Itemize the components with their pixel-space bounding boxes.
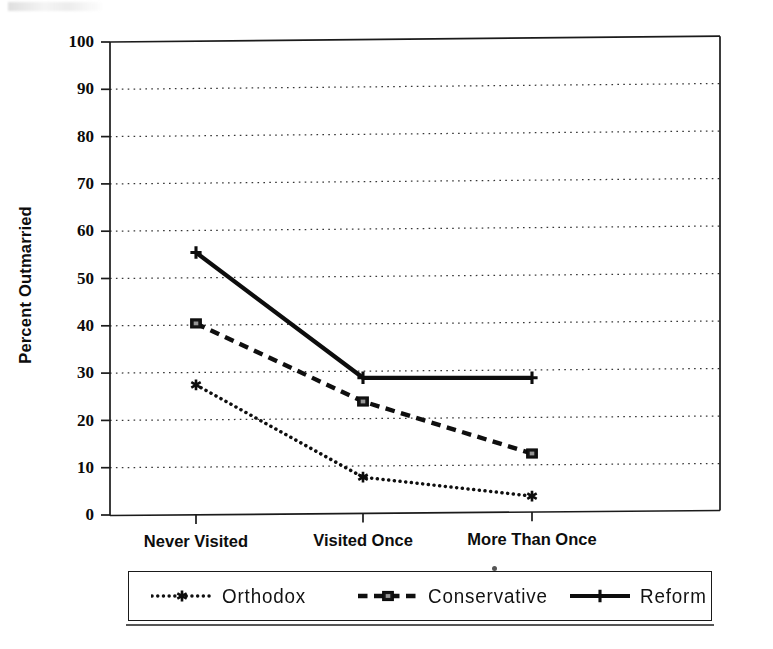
- y-tick-label: 100: [50, 33, 94, 50]
- data-point-marker: [526, 372, 537, 384]
- y-tick-label: 50: [50, 270, 94, 287]
- axes-frame: [110, 36, 720, 515]
- series-conservative: [191, 319, 537, 458]
- legend-entry-conservative[interactable]: Conservative: [357, 585, 556, 608]
- data-point-marker: [527, 449, 537, 458]
- legend-swatch-orthodox: [151, 587, 213, 605]
- legend-entry-reform[interactable]: Reform: [569, 585, 711, 608]
- y-tick-label: 0: [50, 506, 94, 523]
- y-tick-label: 30: [50, 364, 94, 381]
- legend-label-orthodox: Orthodox: [222, 585, 306, 608]
- y-tick-label: 70: [50, 175, 94, 192]
- y-tick-label: 20: [50, 412, 94, 429]
- x-tick-label-never-visited: Never Visited: [126, 533, 266, 550]
- data-point-marker: [191, 319, 201, 328]
- chart-legend: Orthodox Conservative: [128, 571, 712, 621]
- legend-swatch-conservative: [357, 587, 419, 605]
- series-reform: [190, 246, 537, 384]
- y-tick-label: 40: [50, 317, 94, 334]
- legend-label-conservative: Conservative: [428, 585, 548, 608]
- series-conservative-line: [196, 323, 532, 453]
- legend-swatch-reform: [569, 587, 631, 605]
- x-tick-label-more-than-once: More Than Once: [447, 531, 617, 548]
- y-axis-ticks: [101, 42, 110, 515]
- y-tick-label: 10: [50, 459, 94, 476]
- y-tick-label: 60: [50, 222, 94, 239]
- chart-figure: Percent Outmarried: [0, 0, 773, 649]
- legend-entry-orthodox[interactable]: Orthodox: [151, 585, 311, 608]
- series-reform-line: [196, 253, 532, 378]
- data-point-marker: [358, 397, 368, 406]
- plot-area: [0, 0, 773, 649]
- x-tick-label-visited-once: Visited Once: [298, 532, 428, 549]
- data-point-marker: [191, 380, 200, 391]
- legend-label-reform: Reform: [640, 585, 707, 608]
- y-tick-label: 80: [50, 128, 94, 145]
- y-tick-label: 90: [50, 80, 94, 97]
- gridlines: [110, 84, 720, 468]
